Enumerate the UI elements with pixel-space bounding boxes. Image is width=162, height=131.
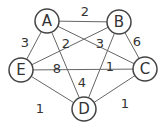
node-label: D	[78, 100, 90, 118]
edge-weight-label: 8	[53, 61, 61, 76]
edge-weight-label: 6	[133, 34, 141, 49]
edge-weight-label: 2	[62, 36, 70, 51]
edge-weight-label: 3	[96, 36, 104, 51]
node-label: B	[114, 13, 124, 31]
weighted-graph: 2323681411 ABCDE	[0, 0, 162, 131]
edge-weight-label: 4	[78, 75, 86, 90]
edge-E-C	[21, 69, 145, 70]
node-A: A	[35, 9, 59, 33]
edge-weight-label: 1	[36, 101, 44, 116]
node-B: B	[107, 10, 131, 34]
node-C: C	[133, 57, 157, 81]
node-E: E	[9, 58, 33, 82]
edge-weight-label: 3	[21, 35, 29, 50]
node-label: C	[140, 60, 150, 78]
node-D: D	[72, 97, 96, 121]
node-label: E	[16, 61, 25, 79]
edge-weight-label: 2	[81, 4, 89, 19]
node-label: A	[42, 12, 53, 30]
edge-weight-label: 1	[106, 59, 114, 74]
edge-weight-label: 1	[121, 96, 129, 111]
